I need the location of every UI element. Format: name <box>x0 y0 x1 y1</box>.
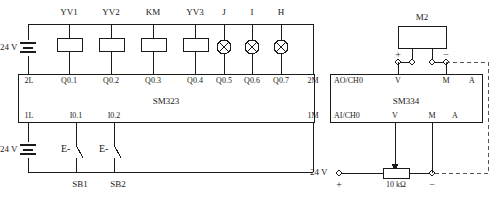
m2-terminal-minus-inner <box>430 60 434 64</box>
ai-terminal-m: M <box>428 112 435 120</box>
terminal-q02: Q0.2 <box>103 77 119 85</box>
device-label-yv3: YV3 <box>186 8 204 17</box>
ao-terminal-v: V <box>395 77 401 85</box>
coil-yv1 <box>57 38 82 51</box>
terminal-q06: Q0.6 <box>244 77 260 85</box>
terminal-q05: Q0.5 <box>216 77 232 85</box>
ai-supply-label: 24 V <box>310 168 328 177</box>
load-box-m2 <box>398 26 446 48</box>
terminal-q07: Q0.7 <box>273 77 289 85</box>
module-label-sm323: SM323 <box>153 97 180 106</box>
potentiometer-body <box>383 168 409 178</box>
ai-minus-sign: − <box>429 180 435 190</box>
contact-blade-sb2 <box>114 145 121 158</box>
contact-mark-sb1: E- <box>61 144 70 154</box>
ai-plus-sign: + <box>336 180 342 190</box>
terminal-2l: 2L <box>25 77 34 85</box>
coil-yv3 <box>183 38 208 51</box>
terminal-q03: Q0.3 <box>145 77 161 85</box>
m2-plus-sign: + <box>395 50 401 60</box>
terminal-i02: I0.2 <box>108 112 121 120</box>
terminal-q04: Q0.4 <box>187 77 203 85</box>
switch-label-sb1: SB1 <box>72 180 88 189</box>
module-label-sm334: SM334 <box>393 97 420 106</box>
m2-terminal-plus-inner <box>410 60 414 64</box>
contact-mark-sb2: E- <box>99 144 108 154</box>
supply-terminal-plus <box>337 171 341 175</box>
m2-minus-sign: − <box>443 50 449 60</box>
device-label-j: J <box>222 8 226 17</box>
coil-km <box>141 38 166 51</box>
coil-yv2 <box>99 38 124 51</box>
terminal-q01: Q0.1 <box>61 77 77 85</box>
device-label-i: I <box>251 8 254 17</box>
ao-terminal-m: M <box>442 77 449 85</box>
ai-terminal-a: A <box>452 112 458 120</box>
terminal-1m: 1M <box>307 112 318 120</box>
switch-label-sb2: SB2 <box>110 180 126 189</box>
terminal-2m: 2M <box>307 77 318 85</box>
ai-terminal-v: V <box>392 112 398 120</box>
input-supply-label: 24 V <box>0 145 18 154</box>
analog-input-header: AI/CH0 <box>334 112 360 120</box>
terminal-1l: 1L <box>25 112 34 120</box>
potentiometer-label: 10 kΩ <box>386 181 406 189</box>
terminal-i01: I0.1 <box>70 112 83 120</box>
device-label-yv1: YV1 <box>60 8 78 17</box>
device-label-yv2: YV2 <box>102 8 120 17</box>
device-label-h: H <box>278 8 285 17</box>
wiring-diagram-canvas: YV1 YV2 KM YV3 J I H 24 V 2L Q0.1 Q0.2 Q… <box>0 0 499 200</box>
ao-terminal-a: A <box>469 77 475 85</box>
device-label-km: KM <box>146 8 161 17</box>
output-supply-label: 24 V <box>0 43 18 52</box>
load-label-m2: M2 <box>416 13 429 22</box>
diagram-svg <box>0 0 499 200</box>
contact-blade-sb1 <box>76 145 83 158</box>
analog-output-header: AO/CH0 <box>334 77 363 85</box>
